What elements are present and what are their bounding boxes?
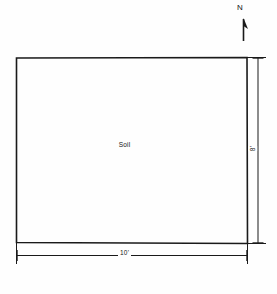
height-dimension-label: 8' bbox=[248, 146, 257, 151]
plot-area-label: Soil bbox=[0, 141, 249, 148]
plot-boundary-rectangle bbox=[17, 58, 248, 244]
north-direction-label: N bbox=[237, 3, 243, 12]
width-dimension-label: 10' bbox=[118, 249, 131, 256]
soil-plot-diagram: N Soil 10' 8' bbox=[0, 0, 277, 294]
